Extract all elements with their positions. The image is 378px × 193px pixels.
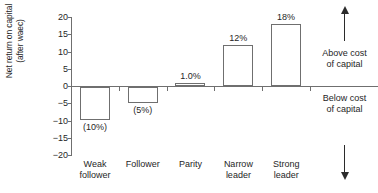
x-axis-tick-mark <box>262 86 263 91</box>
y-axis-title: Net return on capital (after waec) <box>4 0 34 106</box>
annotation-line1: Below cost <box>313 93 376 104</box>
bar-group-strong-leader: 18% <box>262 17 310 156</box>
y-tick-label: 20 <box>42 13 68 22</box>
annotation-above-cost-of-capital: Above cost of capital <box>313 48 376 70</box>
category-line1: Strong <box>256 159 316 170</box>
category-label-strong-leader: Strong leader <box>256 159 316 181</box>
bar-weak-follower <box>80 87 110 120</box>
bar-strong-leader <box>271 24 301 87</box>
y-tick-label: 5 <box>42 64 68 73</box>
bar-narrow-leader <box>223 45 253 87</box>
x-axis-tick-mark <box>119 86 120 91</box>
bar-group-follower: (5%) <box>119 17 167 156</box>
bar-group-narrow-leader: 12% <box>214 17 262 156</box>
category-line2: follower <box>65 170 125 181</box>
bar-group-weak-follower: (10%) <box>71 17 119 156</box>
bar-value-label: (10%) <box>83 122 107 132</box>
bar-value-label: 18% <box>277 12 295 22</box>
down-arrow-icon <box>344 145 345 173</box>
category-line2: leader <box>256 170 316 181</box>
x-axis-tick-mark <box>310 86 311 91</box>
annotation-line1: Above cost <box>313 48 376 59</box>
cost-of-capital-annotations: Above cost of capital Below cost of capi… <box>313 0 378 193</box>
y-tick-label: 0 <box>42 82 68 91</box>
x-axis-tick-mark <box>214 86 215 91</box>
bar-follower <box>128 87 158 103</box>
y-tick-label: −15 <box>42 133 68 142</box>
annotation-line2: of capital <box>313 59 376 70</box>
annotation-below-cost-of-capital: Below cost of capital <box>313 93 376 115</box>
up-arrow-head-icon <box>341 6 349 14</box>
net-return-on-capital-bar-chart: Net return on capital (after waec) 20 15… <box>0 0 378 193</box>
x-axis-tick-mark <box>71 86 72 91</box>
y-axis-tick-labels: 20 15 10 5 0 −5 −10 −15 −20 <box>40 0 68 193</box>
x-axis-category-labels: Weak follower Follower Parity Narrow lea… <box>71 159 310 189</box>
y-axis-title-line1: Net return on capital <box>4 0 15 106</box>
up-arrow-icon <box>344 13 345 41</box>
y-axis-title-line2: (after waec) <box>15 0 26 106</box>
x-axis-tick-mark <box>167 86 168 91</box>
plot-area: (10%) (5%) 1.0% 12% 18% <box>71 17 310 156</box>
bar-value-label: (5%) <box>133 105 152 115</box>
y-tick-label: 10 <box>42 47 68 56</box>
bar-group-parity: 1.0% <box>167 17 215 156</box>
y-tick-label: −10 <box>42 116 68 125</box>
annotation-line2: of capital <box>313 104 376 115</box>
y-tick-label: 15 <box>42 30 68 39</box>
bar-value-label: 1.0% <box>180 71 201 81</box>
down-arrow-head-icon <box>341 172 349 180</box>
bar-parity <box>175 83 205 86</box>
y-tick-label: −5 <box>42 99 68 108</box>
bar-value-label: 12% <box>229 33 247 43</box>
